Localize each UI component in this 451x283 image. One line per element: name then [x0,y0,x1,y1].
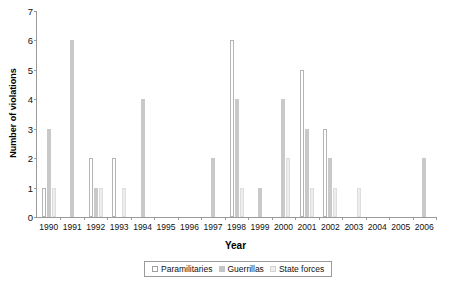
x-axis-title: Year [36,240,435,251]
bar-guerrillas-2000 [281,99,285,217]
x-tick-label: 1997 [204,222,223,232]
x-tick-mark [248,217,249,220]
x-tick-label: 2002 [321,222,340,232]
legend-label: Paramilitaries [161,264,213,274]
y-tick-mark [34,40,37,41]
x-tick-label: 1992 [86,222,105,232]
y-tick-label: 0 [28,212,33,223]
x-tick-label: 2005 [391,222,410,232]
bar-guerrillas-1992 [94,188,98,217]
bar-guerrillas-1998 [235,99,239,217]
legend-label: State forces [279,264,324,274]
x-tick-mark [436,217,437,220]
x-tick-label: 2003 [344,222,363,232]
legend-entry-state[interactable]: State forces [270,264,324,274]
x-tick-label: 2001 [297,222,316,232]
x-tick-label: 1996 [180,222,199,232]
x-tick-label: 1993 [110,222,129,232]
bar-guerrillas-1999 [258,188,262,217]
bar-paramilitaries-1990 [42,188,46,217]
y-tick-label: 1 [28,182,33,193]
x-tick-mark [413,217,414,220]
y-tick-mark [34,158,37,159]
y-tick-mark [34,217,37,218]
bar-guerrillas-1994 [141,99,145,217]
bar-guerrillas-1997 [211,158,215,217]
x-tick-label: 1998 [227,222,246,232]
bar-guerrillas-2002 [328,158,332,217]
y-tick-mark [34,188,37,189]
chart-legend: ParamilitariesGuerrillasState forces [144,261,332,277]
legend-swatch-icon-guer [219,266,225,272]
bar-guerrillas-1990 [47,129,51,217]
legend-swatch-icon-state [270,266,276,272]
bar-state-forces-2002 [333,188,337,217]
y-tick-mark [34,70,37,71]
x-tick-mark [154,217,155,220]
bar-state-forces-1990 [52,188,56,217]
x-tick-label: 1994 [133,222,152,232]
y-tick-mark [34,99,37,100]
y-tick-label: 4 [28,94,33,105]
x-tick-mark [272,217,273,220]
x-tick-mark [342,217,343,220]
legend-entry-guer[interactable]: Guerrillas [219,264,264,274]
x-tick-label: 2006 [415,222,434,232]
x-tick-mark [295,217,296,220]
bar-guerrillas-2006 [422,158,426,217]
y-tick-label: 3 [28,123,33,134]
legend-label: Guerrillas [228,264,264,274]
x-tick-mark [225,217,226,220]
y-tick-mark [34,129,37,130]
x-tick-label: 1990 [39,222,58,232]
bar-paramilitaries-2001 [300,70,304,217]
bar-paramilitaries-1993 [112,158,116,217]
bar-paramilitaries-2002 [323,129,327,217]
x-tick-label: 2000 [274,222,293,232]
y-tick-mark [34,11,37,12]
x-tick-mark [201,217,202,220]
x-tick-mark [131,217,132,220]
bar-guerrillas-2001 [305,129,309,217]
bar-state-forces-1998 [240,188,244,217]
bar-state-forces-2003 [357,188,361,217]
bar-state-forces-1992 [99,188,103,217]
x-tick-label: 1999 [251,222,270,232]
x-tick-mark [84,217,85,220]
x-tick-label: 1995 [157,222,176,232]
y-tick-label: 7 [28,6,33,17]
x-tick-mark [366,217,367,220]
y-tick-label: 6 [28,35,33,46]
bar-paramilitaries-1998 [230,40,234,217]
y-axis-title: Number of violations [8,53,18,173]
x-tick-mark [319,217,320,220]
bar-paramilitaries-1992 [89,158,93,217]
legend-entry-para[interactable]: Paramilitaries [152,264,213,274]
x-tick-mark [178,217,179,220]
plot-area: 0123456719901991199219931994199519961997… [36,11,436,218]
x-tick-mark [107,217,108,220]
x-tick-label: 2004 [368,222,387,232]
bar-state-forces-2001 [310,188,314,217]
bar-state-forces-2000 [286,158,290,217]
x-tick-mark [389,217,390,220]
bar-state-forces-1993 [122,188,126,217]
x-tick-label: 1991 [63,222,82,232]
y-tick-label: 5 [28,64,33,75]
bar-guerrillas-1991 [70,40,74,217]
legend-swatch-icon-para [152,266,158,272]
y-tick-label: 2 [28,153,33,164]
x-tick-mark [60,217,61,220]
violations-bar-chart: Number of violations 0123456719901991199… [0,0,451,283]
